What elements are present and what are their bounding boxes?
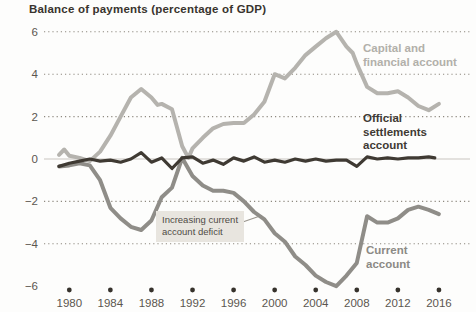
- x-axis-dot: [67, 288, 72, 293]
- balance-of-payments-chart: Balance of payments (percentage of GDP) …: [0, 0, 476, 312]
- y-tick-label: 4: [32, 68, 39, 80]
- x-tick-label: 2012: [385, 297, 411, 309]
- y-tick-label: 2: [32, 111, 38, 123]
- annotation-increasing-current-account-deficit: Increasing current account deficit: [156, 211, 244, 242]
- x-axis-dot: [149, 288, 154, 293]
- y-tick-label: −4: [25, 238, 39, 250]
- x-tick-label: 2008: [344, 297, 370, 309]
- x-tick-label: 1992: [180, 297, 206, 309]
- capital-and-financial-account-label: Capital and financial account: [363, 42, 457, 69]
- y-tick-label: 0: [32, 153, 38, 165]
- x-axis-dot: [108, 288, 113, 293]
- annotation-text-line: Increasing current: [162, 214, 238, 226]
- official-settlements-account-label: Official settlements account: [363, 112, 427, 153]
- y-tick-label: −6: [25, 280, 38, 292]
- x-axis-dot: [231, 288, 236, 293]
- x-tick-label: 2000: [262, 297, 288, 309]
- x-tick-label: 1980: [57, 297, 83, 309]
- x-tick-label: 1988: [139, 297, 165, 309]
- x-axis-dot: [437, 288, 442, 293]
- x-tick-label: 1996: [221, 297, 247, 309]
- x-tick-label: 2004: [303, 297, 329, 309]
- annotation-text-line: account deficit: [162, 226, 238, 238]
- series-line-official-settlements-account: [59, 153, 435, 169]
- x-tick-label: 2016: [426, 297, 452, 309]
- x-axis-dot: [190, 288, 195, 293]
- x-axis-dot: [395, 288, 400, 293]
- x-tick-label: 1984: [98, 297, 124, 309]
- x-axis-dot: [313, 288, 318, 293]
- y-tick-label: 6: [32, 26, 38, 38]
- y-tick-label: −2: [25, 195, 38, 207]
- x-axis-dot: [272, 288, 277, 293]
- x-axis-dot: [354, 288, 359, 293]
- current-account-label: Current account: [366, 244, 410, 271]
